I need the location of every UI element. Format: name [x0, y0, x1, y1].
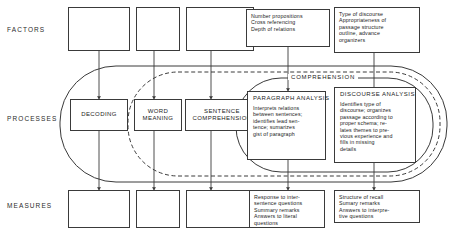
factor-box-1[interactable]: [68, 7, 130, 51]
analysis-body-paragraph: Interprets relations between sentences; …: [253, 105, 322, 137]
factor-box-2[interactable]: [136, 7, 180, 51]
measure-box-1[interactable]: [68, 190, 130, 228]
comprehension-oval-label: COMPREHENSION: [288, 74, 358, 80]
analysis-title-discourse: DISCOURSE ANALYSIS: [340, 91, 412, 97]
analysis-box-paragraph[interactable]: PARAGRAPH ANALYSIS Interprets relations …: [247, 91, 326, 160]
process-box-word-meaning[interactable]: WORD MEANING: [134, 99, 182, 131]
process-box-decoding[interactable]: DECODING: [70, 99, 128, 131]
factor-box-text-propositions[interactable]: Number propositions Cross referencing De…: [246, 9, 330, 47]
analysis-body-discourse: Identifies type of discourse; organizes …: [340, 101, 412, 152]
tier-label-processes: PROCESSES: [7, 115, 57, 122]
diagram-canvas: FACTORS PROCESSES MEASURES Number propos…: [0, 0, 452, 234]
measure-box-text-recall-structure[interactable]: Structure of recall Sumary remarks Answe…: [334, 190, 420, 223]
tier-label-measures: MEASURES: [7, 202, 52, 209]
measure-box-3[interactable]: [186, 190, 254, 228]
analysis-box-discourse[interactable]: DISCOURSE ANALYSIS Identifies type of di…: [334, 87, 416, 163]
measure-box-2[interactable]: [136, 190, 180, 228]
measure-box-text-intersentence[interactable]: Response to inter- sentence questions Su…: [249, 190, 325, 228]
tier-label-factors: FACTORS: [7, 26, 45, 33]
factor-box-text-discourse-type[interactable]: Type of discourse Appropriateness of pas…: [334, 7, 420, 53]
factor-box-3[interactable]: [186, 7, 254, 51]
analysis-title-paragraph: PARAGRAPH ANALYSIS: [253, 95, 322, 101]
